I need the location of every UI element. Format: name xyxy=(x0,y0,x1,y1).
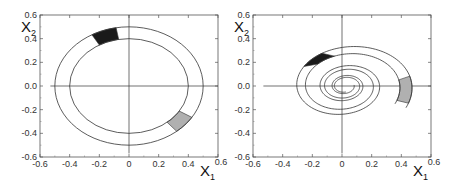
y-tick-label: -0.2 xyxy=(21,105,37,115)
x-tick-label: 0.4 xyxy=(182,159,195,169)
x-tick-label: -0.2 xyxy=(305,159,321,169)
y-axis-label: X xyxy=(234,18,244,35)
x-axis-label-subscript: 1 xyxy=(210,172,215,182)
y-axis-label-subscript: 2 xyxy=(31,28,36,38)
x-tick-label: 0.2 xyxy=(365,159,378,169)
y-tick-label: 0.2 xyxy=(24,57,37,67)
x-tick-label: -0.4 xyxy=(275,159,291,169)
y-tick-label: 0.2 xyxy=(237,57,250,67)
y-tick-label: 0.0 xyxy=(237,81,250,91)
x-axis-label-subscript: 1 xyxy=(423,172,428,182)
right-phase-portrait: -0.6-0.4-0.200.20.40.60.60.40.20.0-0.2-0… xyxy=(234,10,440,182)
x-tick-label: 0.6 xyxy=(215,157,228,167)
x-tick-label: -0.4 xyxy=(62,159,78,169)
y-axis-label-subscript: 2 xyxy=(244,28,249,38)
x-tick-label: -0.2 xyxy=(92,159,108,169)
x-tick-label: 0.4 xyxy=(395,159,408,169)
x-tick-label: 0.6 xyxy=(428,157,441,167)
x-tick-label: 0.2 xyxy=(152,159,165,169)
y-tick-label: -0.6 xyxy=(234,152,250,162)
dark-region xyxy=(304,53,335,66)
y-axis-label: X xyxy=(21,18,31,35)
x-axis-label: X xyxy=(413,162,423,179)
left-phase-portrait: -0.6-0.4-0.200.20.40.60.60.40.20.0-0.2-0… xyxy=(21,10,227,182)
outer-spiral xyxy=(297,47,412,115)
y-tick-label: -0.4 xyxy=(234,128,250,138)
y-tick-label: 0.0 xyxy=(24,81,37,91)
y-tick-label: -0.6 xyxy=(21,152,37,162)
y-tick-label: -0.4 xyxy=(21,128,37,138)
y-tick-label: -0.2 xyxy=(234,105,250,115)
x-tick-label: 0 xyxy=(339,159,344,169)
x-axis-label: X xyxy=(200,162,210,179)
figure: -0.6-0.4-0.200.20.40.60.60.40.20.0-0.2-0… xyxy=(0,0,454,187)
x-tick-label: 0 xyxy=(126,159,131,169)
